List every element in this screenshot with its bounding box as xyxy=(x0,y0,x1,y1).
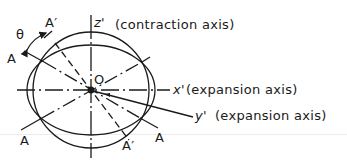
a-prime-top-label: A′ xyxy=(45,16,57,29)
a-a-line-1-solid-upper xyxy=(24,51,44,62)
y-prime-label: y' xyxy=(195,109,207,122)
x-prime-description: (expansion axis) xyxy=(186,83,298,96)
a-lower-right-label: A xyxy=(155,131,164,144)
origin-label: O xyxy=(94,73,105,86)
strain-diagram: θ A′ A A A A′ O z' (contraction axis) x'… xyxy=(0,0,347,163)
origin-dot xyxy=(88,87,95,94)
a-a-line-2-solid-upper xyxy=(142,57,150,62)
theta-arc xyxy=(27,33,46,50)
z-prime-description: (contraction axis) xyxy=(115,18,235,31)
a-upper-left-label: A xyxy=(7,52,16,65)
a-prime-bottom-label: A′ xyxy=(122,139,134,152)
a-lower-left-label: A xyxy=(20,134,29,147)
y-prime-description: (expansion axis) xyxy=(215,109,327,122)
a-a-line-1-solid-lower xyxy=(140,118,158,128)
a-a-line-2-solid-lower xyxy=(21,118,42,130)
theta-label: θ xyxy=(16,28,24,41)
x-prime-label: x' xyxy=(173,83,185,96)
a-prime-tick-top xyxy=(44,31,52,38)
z-prime-label: z' xyxy=(94,16,105,29)
